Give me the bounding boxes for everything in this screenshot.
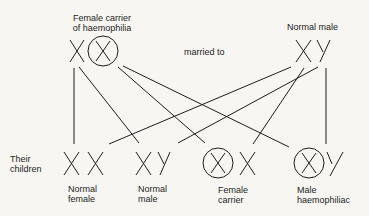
child-male-haemophiliac: [294, 148, 343, 178]
child-female-carrier: [203, 148, 255, 178]
child-label-line2: carrier: [218, 195, 248, 205]
mother-affected-x-chromosome: [88, 36, 118, 66]
children-label-line2: children: [10, 164, 42, 174]
child-label-female-carrier: Female carrier: [218, 185, 248, 205]
child-label-line2: female: [68, 194, 97, 204]
mother-label-line2: of haemophilia: [52, 23, 152, 33]
father-label: Normal male: [287, 22, 338, 32]
children-label: Their children: [10, 154, 42, 174]
child-label-normal-male: Normal male: [138, 184, 167, 204]
married-to-label: married to: [184, 47, 225, 57]
child-normal-male-xy: [136, 152, 170, 175]
mother-label: Female carrier of haemophilia: [52, 13, 152, 33]
child-label-line1: Female: [218, 185, 248, 195]
child-label-male-haemophiliac: Male haemophiliac: [297, 185, 350, 205]
inheritance-lines: [74, 66, 326, 147]
mother-label-line1: Female carrier: [52, 13, 152, 23]
child-label-line2: haemophiliac: [297, 195, 350, 205]
child-label-line2: male: [138, 194, 167, 204]
child-label-line1: Male: [297, 185, 350, 195]
child-label-line1: Normal: [68, 184, 97, 194]
children-label-line1: Their: [10, 154, 42, 164]
child-normal-female-xx: [64, 152, 103, 175]
child-label-normal-female: Normal female: [68, 184, 97, 204]
mother-x-chromosome: [70, 40, 84, 62]
child-label-line1: Normal: [138, 184, 167, 194]
father-y-chromosome: [317, 40, 330, 62]
father-x-chromosome: [296, 40, 311, 62]
